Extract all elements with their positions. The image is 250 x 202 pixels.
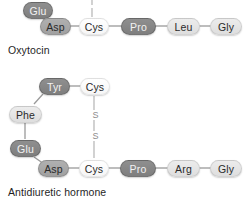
sulfur-atom-upper: S <box>91 110 100 120</box>
residue-adh-gly[interactable]: Gly <box>210 160 242 177</box>
sulfur-atom-lower: S <box>91 131 100 141</box>
residue-adh-glu[interactable]: Glu <box>10 140 41 157</box>
residue-adh-cys-upper[interactable]: Cys <box>80 78 110 95</box>
residue-oxytocin-gly[interactable]: Gly <box>210 18 242 35</box>
residue-adh-pro[interactable]: Pro <box>120 160 156 177</box>
residue-oxytocin-glu[interactable]: Glu <box>23 2 53 19</box>
residue-oxytocin-asp[interactable]: Asp <box>40 18 71 35</box>
caption-oxytocin: Oxytocin <box>8 44 50 56</box>
residue-adh-cys-lower[interactable]: Cys <box>79 160 109 177</box>
residue-oxytocin-cys[interactable]: Cys <box>79 18 109 35</box>
residue-adh-arg[interactable]: Arg <box>167 160 200 177</box>
peptide-hormone-diagram: Glu Asp Cys Pro Leu Gly Oxytocin Tyr Cys… <box>0 0 250 202</box>
residue-adh-phe[interactable]: Phe <box>9 106 42 123</box>
residue-adh-tyr[interactable]: Tyr <box>39 78 70 95</box>
adh-bond-tyr-phe <box>34 94 43 104</box>
residue-oxytocin-leu[interactable]: Leu <box>167 18 200 35</box>
caption-antidiuretic-hormone: Antidiuretic hormone <box>8 186 106 198</box>
residue-adh-asp[interactable]: Asp <box>38 160 69 177</box>
residue-oxytocin-pro[interactable]: Pro <box>121 18 156 35</box>
